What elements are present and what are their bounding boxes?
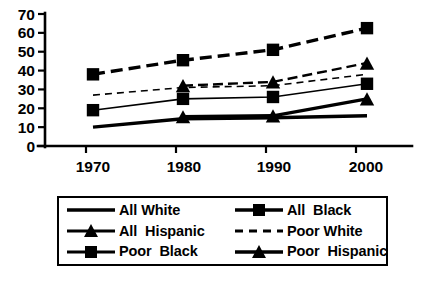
series-all-black <box>87 22 373 81</box>
data-point-marker <box>177 54 189 66</box>
y-tick-label: 0 <box>26 138 35 155</box>
legend-item-label: Poor Hispanic <box>287 244 387 259</box>
legend-line-sample <box>233 222 285 240</box>
legend-item-poor-white[interactable]: Poor White <box>233 221 387 242</box>
legend-line-sample <box>65 201 117 219</box>
y-tick-label: 60 <box>18 24 35 41</box>
x-axis: 1970198019902000 <box>38 146 412 175</box>
legend-item-all-white[interactable]: All White <box>65 200 233 221</box>
data-point-marker <box>361 22 373 34</box>
legend-item-all-black[interactable]: All Black <box>233 200 387 221</box>
y-tick-label: 70 <box>18 6 35 23</box>
legend-item-label: All White <box>119 203 180 218</box>
x-tick-label: 1980 <box>167 158 201 175</box>
legend-line-sample <box>233 201 285 219</box>
x-tick-label: 1970 <box>76 158 110 175</box>
x-tick-label: 2000 <box>349 158 383 175</box>
chart-legend: All WhiteAll BlackAll HispanicPoor White… <box>57 196 388 266</box>
y-axis: 010203040506070 <box>18 6 45 155</box>
x-tick-label: 1990 <box>257 158 291 175</box>
y-tick-label: 40 <box>18 62 35 79</box>
legend-item-label: Poor White <box>287 224 363 239</box>
data-point-marker <box>267 91 279 103</box>
legend-line-sample <box>233 243 285 261</box>
x-axis-tick-labels: 1970198019902000 <box>76 158 383 175</box>
legend-line-sample <box>65 222 117 240</box>
y-tick-label: 50 <box>18 43 35 60</box>
data-series-layer <box>87 22 374 127</box>
legend-entries: All WhiteAll BlackAll HispanicPoor White… <box>59 198 386 264</box>
y-tick-label: 20 <box>18 100 35 117</box>
data-point-marker <box>361 78 373 90</box>
data-point-marker <box>267 44 279 56</box>
data-point-marker <box>177 93 189 105</box>
plot-area: 010203040506070 1970198019902000 <box>0 0 425 180</box>
legend-item-all-hispanic[interactable]: All Hispanic <box>65 221 233 242</box>
y-tick-label: 10 <box>18 119 35 136</box>
legend-item-label: All Hispanic <box>119 224 205 239</box>
legend-item-poor-black[interactable]: Poor Black <box>65 241 233 262</box>
data-point-marker <box>87 68 99 80</box>
chart-figure: 010203040506070 1970198019902000 All Whi… <box>0 0 425 286</box>
y-axis-tick-labels: 010203040506070 <box>18 6 35 155</box>
data-point-marker <box>87 104 99 116</box>
legend-item-label: Poor Black <box>119 244 198 259</box>
chart-svg: 010203040506070 1970198019902000 <box>0 0 425 180</box>
legend-item-label: All Black <box>287 203 351 218</box>
legend-item-poor-hispanic[interactable]: Poor Hispanic <box>233 241 387 262</box>
legend-line-sample <box>65 243 117 261</box>
y-tick-label: 30 <box>18 81 35 98</box>
